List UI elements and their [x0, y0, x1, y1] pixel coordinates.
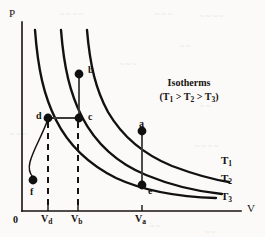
x-axis-label: V — [247, 203, 255, 214]
figure-canvas: ~ ~ ~ ~~ ~ ~~ ~ ~ ~~ ~~ ~ ~~ ~~ ~ ~~ ~ ~… — [0, 0, 265, 237]
legend-gt-1: > T — [173, 91, 190, 102]
point-label-c: c — [88, 112, 92, 122]
point-marker-c — [75, 114, 84, 123]
curve-label-t3: T3 — [221, 191, 232, 203]
point-label-d: d — [36, 111, 42, 121]
x-tick-label-vd: Vd — [41, 214, 52, 225]
x-tick-label-vb: Vb — [71, 214, 82, 225]
curve-label-t2: T2 — [221, 173, 232, 185]
curve-label-t1: T1 — [221, 155, 232, 167]
x-tick-vd-sub: d — [48, 217, 52, 226]
point-marker-d — [44, 114, 53, 123]
point-marker-b — [75, 70, 84, 79]
curve-label-t1-sub: 1 — [228, 159, 232, 168]
connector-d-to-f-curve — [29, 119, 48, 177]
legend-relation: (T1 > T2 > T3) — [150, 90, 228, 105]
x-tick-vb-sub: b — [78, 217, 82, 226]
y-axis-label: P — [9, 8, 15, 19]
point-marker-e — [138, 181, 147, 190]
state-point-markers — [29, 70, 147, 190]
origin-label: 0 — [13, 215, 18, 225]
isotherm-curves — [35, 30, 229, 198]
curve-label-t2-sub: 2 — [228, 177, 232, 186]
legend-block: Isotherms (T1 > T2 > T3) — [150, 76, 228, 105]
legend-title: Isotherms — [150, 76, 228, 90]
dashed-drop-lines — [48, 122, 78, 205]
legend-close-paren: ) — [215, 91, 218, 102]
point-label-a: a — [139, 119, 144, 129]
point-marker-f — [29, 176, 38, 185]
point-label-b: b — [88, 65, 94, 75]
x-tick-label-va: Va — [135, 214, 146, 225]
point-label-e: e — [148, 186, 152, 196]
x-axis-ticks — [48, 205, 142, 211]
point-label-f: f — [30, 187, 33, 197]
x-tick-va-sub: a — [142, 217, 146, 226]
legend-open-paren: (T — [160, 91, 170, 102]
isotherm-curve-t1 — [87, 30, 229, 182]
legend-gt-2: > T — [194, 91, 211, 102]
curve-label-t3-sub: 3 — [228, 195, 232, 204]
